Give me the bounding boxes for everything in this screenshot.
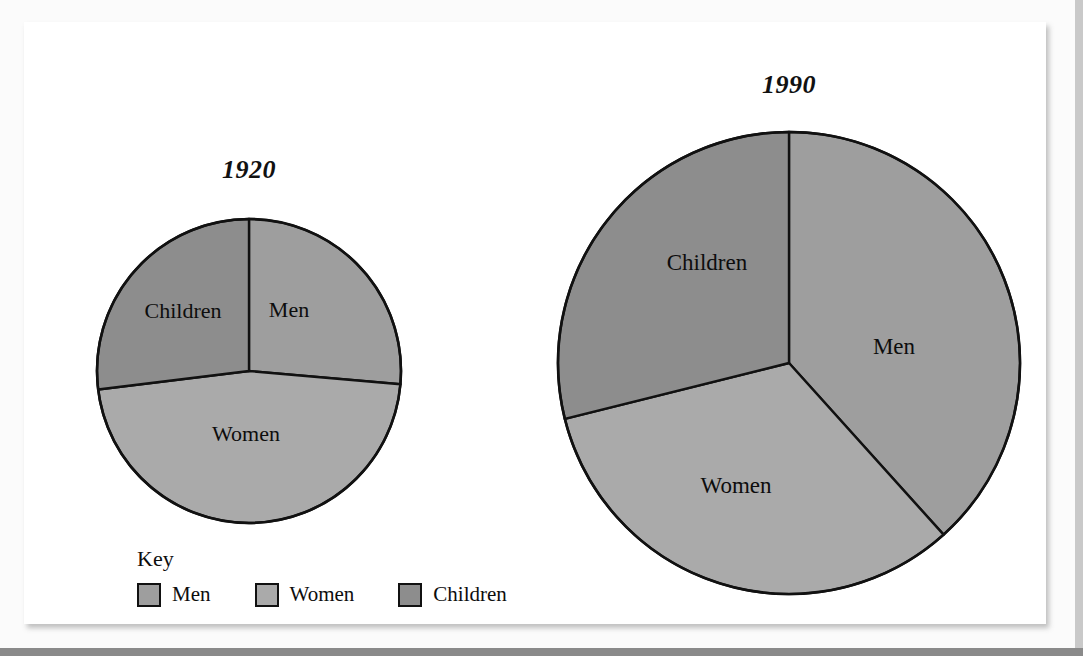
page-edge-right bbox=[1075, 0, 1083, 656]
pie-slice-men bbox=[249, 219, 401, 384]
legend-label-women: Women bbox=[290, 582, 355, 607]
legend-label-children: Children bbox=[433, 582, 507, 607]
legend-item-women: Women bbox=[255, 582, 355, 607]
legend: Key Men Women Children bbox=[137, 546, 507, 607]
chart-title-1920: 1920 bbox=[184, 155, 314, 185]
pie-chart-1920 bbox=[94, 216, 404, 526]
chart-paper: 1920 Men Women Children 1990 Men Women C… bbox=[24, 22, 1046, 624]
legend-title: Key bbox=[137, 546, 507, 572]
pie-slice-children bbox=[97, 219, 249, 390]
page-edge-bottom bbox=[0, 648, 1083, 656]
legend-items: Men Women Children bbox=[137, 582, 507, 607]
legend-swatch-children bbox=[398, 583, 422, 607]
legend-item-men: Men bbox=[137, 582, 211, 607]
legend-swatch-women bbox=[255, 583, 279, 607]
legend-swatch-men bbox=[137, 583, 161, 607]
pie-chart-1990 bbox=[554, 128, 1024, 598]
legend-item-children: Children bbox=[398, 582, 507, 607]
pie-1920-svg bbox=[94, 216, 404, 526]
legend-label-men: Men bbox=[172, 582, 211, 607]
pie-1990-svg bbox=[554, 128, 1024, 598]
pie-slice-women bbox=[98, 371, 400, 523]
chart-title-1990: 1990 bbox=[724, 70, 854, 100]
